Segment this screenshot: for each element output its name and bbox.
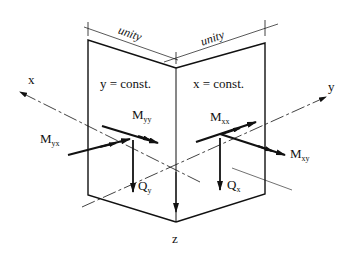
- right-panel: [176, 43, 265, 222]
- myy-label: Myy: [132, 107, 152, 124]
- myx-label: Myx: [40, 131, 60, 148]
- y-axis-label: y: [328, 79, 335, 94]
- left-panel: [88, 40, 176, 222]
- z-axis: z: [172, 68, 178, 246]
- plate-element-diagram: z unity unity y = const. x = const. x y …: [0, 0, 352, 256]
- reference-line: [232, 168, 292, 190]
- x-axis-label: x: [28, 72, 35, 87]
- y-axis: y: [82, 79, 335, 207]
- unity-label-right: unity: [199, 27, 227, 48]
- shear-qx: Qx: [220, 138, 240, 194]
- z-axis-label: z: [172, 231, 178, 246]
- mxx-label: Mxx: [210, 109, 230, 126]
- left-panel-label: y = const.: [100, 76, 151, 91]
- qy-label: Qy: [138, 178, 151, 195]
- mxy-label: Mxy: [290, 146, 310, 163]
- unity-label-left: unity: [116, 23, 144, 44]
- right-panel-label: x = const.: [193, 76, 244, 91]
- shear-qy: Qy: [133, 140, 151, 195]
- moment-myx: Myx: [40, 131, 130, 155]
- qx-label: Qx: [227, 177, 240, 194]
